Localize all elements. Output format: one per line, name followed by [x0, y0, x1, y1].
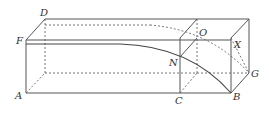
label-o: O	[199, 27, 207, 38]
label-x: X	[233, 39, 242, 50]
visible-edges	[26, 19, 249, 93]
edge-b-to-g	[231, 73, 249, 93]
label-b: B	[232, 91, 240, 102]
label-f: F	[15, 35, 24, 46]
label-c: C	[175, 95, 183, 106]
point-labels: D F A O X N G C B	[14, 7, 259, 106]
edge-a-to-back	[26, 73, 45, 93]
label-a: A	[14, 90, 22, 101]
label-n: N	[168, 57, 179, 68]
label-g: G	[251, 68, 259, 79]
geometry-diagram: D F A O X N G C B	[0, 0, 269, 120]
edge-x-to-top	[231, 19, 249, 38]
edge-f-to-d	[26, 19, 45, 40]
front-arc-curve	[26, 44, 231, 93]
hidden-edges	[26, 19, 249, 93]
label-d: D	[39, 7, 48, 18]
diagram-canvas: D F A O X N G C B	[0, 0, 269, 120]
edge-n-to-o	[180, 38, 197, 57]
edge-c-to-inner	[180, 73, 197, 93]
